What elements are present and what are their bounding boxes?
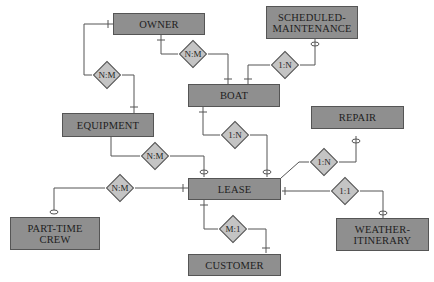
entity-weather-itinerary: WEATHER- ITINERARY: [336, 218, 429, 251]
relationship-equipment-lease: N:M: [140, 141, 170, 171]
relationship-boat-maintenance: 1:N: [270, 50, 300, 80]
relationship-lease-repair: 1:N: [309, 147, 339, 177]
entity-label-line2: CREW: [39, 234, 70, 245]
entity-equipment: EQUIPMENT: [62, 113, 154, 137]
entity-owner: OWNER: [113, 13, 205, 35]
relationship-owner-boat: N:M: [178, 39, 208, 69]
relationship-lease-customer: M:1: [218, 214, 248, 244]
entity-part-time-crew: PART-TIME CREW: [10, 217, 100, 250]
entity-scheduled-maintenance: SCHEDULED- MAINTENANCE: [266, 6, 358, 39]
entity-lease: LEASE: [188, 178, 281, 200]
relationship-lease-weather: 1:1: [330, 176, 360, 206]
entity-label-line2: MAINTENANCE: [272, 23, 351, 34]
relationship-boat-lease: 1:N: [220, 120, 250, 150]
entity-label-line1: WEATHER-: [355, 224, 410, 235]
relationship-owner-equipment: N:M: [92, 60, 122, 90]
relationship-crew-lease: N:M: [105, 173, 135, 203]
entity-repair: REPAIR: [311, 106, 404, 129]
entity-label-line1: PART-TIME: [27, 223, 82, 234]
entity-boat: BOAT: [188, 84, 280, 107]
entity-label-line1: SCHEDULED-: [278, 12, 346, 23]
entity-customer: CUSTOMER: [188, 254, 281, 276]
entity-label-line2: ITINERARY: [354, 235, 412, 246]
